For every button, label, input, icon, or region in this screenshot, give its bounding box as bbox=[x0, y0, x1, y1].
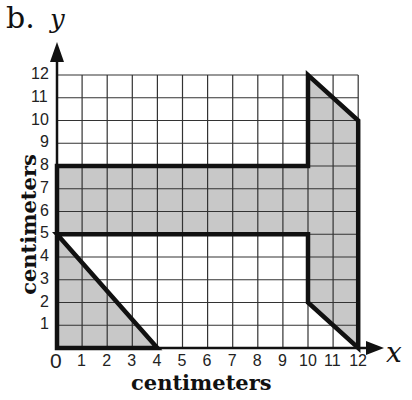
y-tick-label: 3 bbox=[40, 270, 49, 288]
x-tick-label: 0 bbox=[50, 349, 62, 373]
y-tick-label: 6 bbox=[40, 202, 49, 220]
y-tick-label: 10 bbox=[31, 111, 49, 129]
x-tick-label: 6 bbox=[203, 352, 212, 370]
x-tick-label: 1 bbox=[77, 352, 86, 370]
x-tick-label: 2 bbox=[102, 352, 111, 370]
y-tick-label: 2 bbox=[40, 293, 49, 311]
x-tick-label: 5 bbox=[178, 352, 187, 370]
x-tick-label: 9 bbox=[278, 352, 287, 370]
x-tick-label: 4 bbox=[152, 352, 161, 370]
x-tick-label: 8 bbox=[253, 352, 262, 370]
y-tick-label: 9 bbox=[40, 133, 49, 151]
x-tick-label: 7 bbox=[228, 352, 237, 370]
y-axis-arrow-icon bbox=[50, 42, 64, 62]
y-tick-label: 1 bbox=[40, 315, 49, 333]
y-tick-label: 8 bbox=[40, 156, 49, 174]
x-tick-label: 10 bbox=[299, 352, 317, 370]
y-tick-label: 12 bbox=[31, 65, 49, 83]
y-tick-label: 4 bbox=[40, 247, 49, 265]
x-tick-label: 12 bbox=[349, 352, 367, 370]
y-tick-label: 11 bbox=[31, 88, 48, 106]
x-tick-label: 3 bbox=[127, 352, 136, 370]
y-tick-label: 7 bbox=[40, 179, 49, 197]
coordinate-grid-figure: b. y x centimeters centimeters 012345678… bbox=[0, 0, 412, 400]
y-tick-label: 5 bbox=[40, 224, 49, 242]
x-tick-label: 11 bbox=[324, 352, 341, 370]
x-axis-arrow-icon bbox=[366, 341, 384, 355]
grid-plot bbox=[0, 0, 412, 400]
